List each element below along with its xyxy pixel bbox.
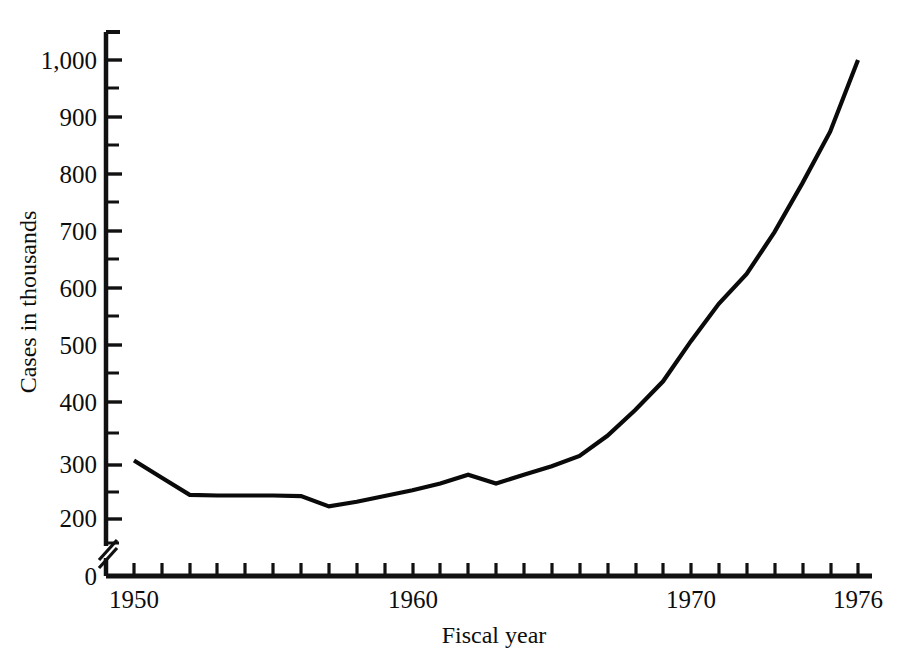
y-axis-tick-labels: 1,000 900 800 700 600 500 400 300 200 0 — [41, 47, 97, 590]
x-tick-label: 1960 — [388, 586, 438, 613]
y-tick-label: 700 — [60, 218, 98, 245]
line-chart: 1,000 900 800 700 600 500 400 300 200 0 — [0, 0, 903, 654]
y-tick-label: 400 — [60, 389, 98, 416]
x-axis-title: Fiscal year — [442, 622, 547, 648]
y-tick-label: 800 — [60, 161, 98, 188]
y-axis-major-ticks — [106, 60, 122, 519]
x-tick-label: 1976 — [833, 586, 883, 613]
data-line-cases — [134, 60, 858, 506]
y-tick-label: 1,000 — [41, 47, 97, 74]
x-tick-label: 1970 — [666, 586, 716, 613]
y-tick-label: 500 — [60, 332, 98, 359]
x-axis-tick-labels: 1950 1960 1970 1976 — [109, 586, 883, 613]
y-tick-label: 900 — [60, 104, 98, 131]
x-tick-label: 1950 — [109, 586, 159, 613]
y-tick-label: 300 — [60, 451, 98, 478]
y-tick-label: 0 — [85, 563, 98, 590]
y-tick-label: 200 — [60, 505, 98, 532]
y-tick-label: 600 — [60, 275, 98, 302]
y-axis-title: Cases in thousands — [15, 211, 41, 394]
chart-figure: 1,000 900 800 700 600 500 400 300 200 0 — [0, 0, 903, 654]
